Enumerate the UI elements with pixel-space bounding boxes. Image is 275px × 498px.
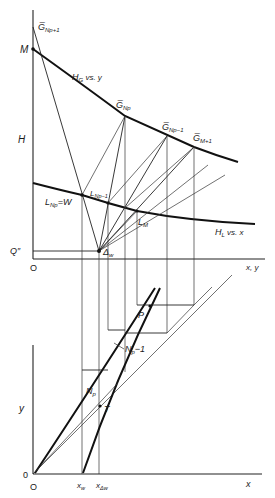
point-lm — [135, 209, 138, 212]
point-lnp-1 — [106, 201, 109, 204]
tick-xdw: xΔw — [95, 481, 109, 491]
tick-xw: xw — [76, 481, 86, 491]
diagonal-line — [33, 275, 232, 474]
bottom-y-axis-label: y — [18, 403, 25, 414]
extra-line-1 — [99, 165, 208, 251]
extra-line-2 — [99, 175, 225, 251]
ponchon-savarit-diagram: H M G̅Np+1 HG vs. y G̅Np G̅Np−1 G̅M+1 LN… — [0, 0, 275, 498]
tie-gm1 — [125, 147, 194, 208]
label-hl-curve: HL vs. x — [215, 227, 245, 238]
label-t: T — [104, 404, 111, 414]
bottom-x-axis-label: x — [245, 479, 251, 489]
bottom-xy-plot: y x 0 O P T Np Np−1 xw xΔw — [18, 275, 262, 492]
label-np-1: Np−1 — [125, 344, 145, 355]
top-origin-label: O — [30, 263, 37, 273]
bottom-origin-y-label: 0 — [23, 470, 28, 480]
diag-seg-gm1 — [194, 287, 212, 305]
top-enthalpy-plot: H M G̅Np+1 HG vs. y G̅Np G̅Np−1 G̅M+1 LN… — [10, 10, 265, 474]
label-gnp-1: G̅Np−1 — [162, 122, 184, 133]
label-m: M — [20, 44, 29, 55]
line-gm1-delta — [99, 147, 194, 251]
label-p: P — [138, 310, 144, 320]
label-np: Np — [86, 386, 97, 397]
point-m — [31, 47, 35, 51]
label-gnp: G̅Np — [116, 100, 131, 111]
label-hg-curve: HG vs. y — [72, 72, 103, 83]
point-t — [98, 404, 101, 407]
label-lm: LM — [138, 217, 148, 228]
hg-curve — [33, 49, 238, 162]
equilibrium-curve — [35, 288, 155, 473]
bottom-origin-x-label: O — [30, 482, 37, 492]
top-x-axis-label: x, y — [245, 263, 259, 272]
point-p — [148, 304, 151, 307]
label-delta-w: Δw — [102, 247, 114, 258]
label-lnp-w: LNp=W — [45, 197, 73, 208]
line-gnp-delta — [99, 116, 125, 251]
point-lnp-w — [80, 193, 84, 197]
h-axis-label: H — [18, 134, 26, 145]
line-gnp1-delta — [33, 27, 99, 251]
label-gnp1: G̅Np+1 — [38, 22, 60, 33]
point-delta-w — [97, 249, 101, 253]
label-q-double-prime: Q″ — [10, 246, 21, 256]
line-gnp1-delta-b — [99, 136, 167, 251]
tie-gnpm1-lnpm1 — [108, 136, 167, 203]
line-lm-delta — [99, 211, 137, 251]
label-gm1: G̅M+1 — [193, 133, 212, 144]
label-lnp-1: LNp−1 — [90, 189, 108, 199]
tie-gnp-lnp — [82, 116, 125, 195]
line-origin-t — [33, 383, 118, 474]
diag-seg-gnpm1 — [167, 305, 194, 333]
